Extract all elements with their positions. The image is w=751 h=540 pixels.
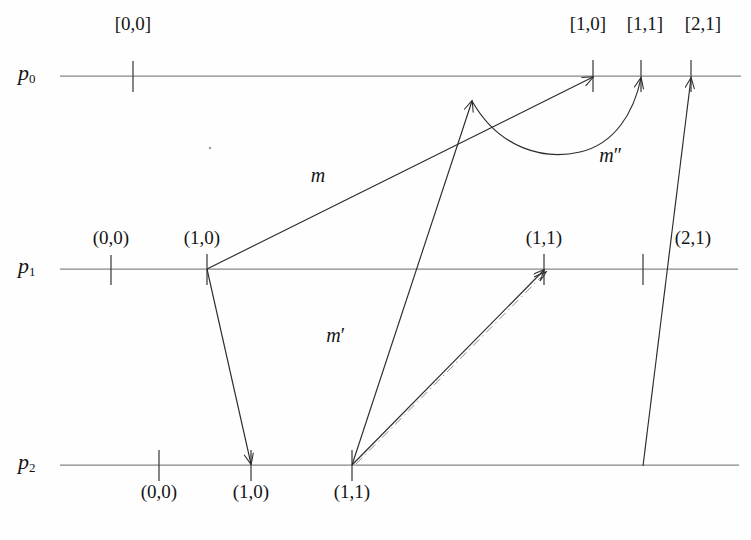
rail-label-p0: p0 [18, 62, 36, 85]
tick-label-p1-21: (2,1) [675, 228, 711, 247]
tick-label-p2-10: (1,0) [233, 482, 269, 501]
map-label-m-double-prime: m″ [599, 145, 622, 165]
map-label-m: m [311, 165, 325, 185]
rail-label-p2: p2 [18, 451, 36, 474]
tick-label-p0-10: [1,0] [570, 14, 606, 33]
diagram-svg [0, 0, 751, 540]
arrow-m-prime [352, 270, 544, 465]
tick-marks [111, 60, 691, 481]
arrow-p1-21-to-p0-21 [643, 78, 691, 466]
tick-label-p1-11: (1,1) [526, 228, 562, 247]
tick-label-p1-10: (1,0) [184, 228, 220, 247]
tick-label-p0-00: [0,0] [115, 14, 151, 33]
map-arrows [207, 77, 691, 466]
map-label-m-prime: m′ [326, 325, 345, 345]
tick-label-p2-00: (0,0) [141, 482, 177, 501]
rail-lines [60, 76, 741, 465]
stray-dot [209, 147, 211, 149]
arrow-p1-10-to-p2-10 [207, 269, 251, 464]
arrow-m-double-prime-curve [472, 78, 641, 154]
rail-label-p1: p1 [18, 255, 36, 278]
tick-label-p1-00: (0,0) [93, 228, 129, 247]
arrow-p2-11-up [352, 101, 472, 465]
tick-label-p0-11: [1,1] [627, 14, 663, 33]
figure-canvas: p0 p1 p2 [0,0] [1,0] [1,1] [2,1] (0,0) (… [0, 0, 751, 540]
tick-label-p0-21: [2,1] [685, 14, 721, 33]
tick-label-p2-11: (1,1) [334, 482, 370, 501]
